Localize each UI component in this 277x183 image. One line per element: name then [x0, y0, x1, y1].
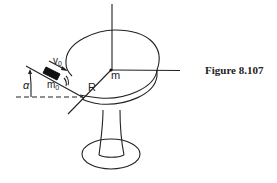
turntable-diagram — [0, 0, 277, 183]
angle-label: α — [23, 80, 29, 91]
figure-caption: Figure 8.107 — [205, 64, 263, 76]
horizontal-axis — [111, 70, 180, 71]
angle-arc — [30, 71, 31, 97]
velocity-label: v0 — [53, 56, 62, 67]
pedestal-base — [82, 139, 140, 169]
projectile-mass-label: m0 — [47, 80, 59, 91]
center-mass-label: m — [111, 70, 120, 81]
disc-rim-left — [66, 64, 72, 76]
radius-label: R — [88, 82, 96, 93]
pedestal-stem — [99, 110, 124, 155]
